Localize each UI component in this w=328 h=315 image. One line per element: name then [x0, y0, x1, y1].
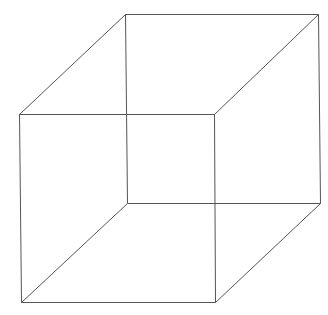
cube-edge-front_br-back_br [216, 204, 321, 303]
cube-edge-front_bl-back_bl [22, 204, 128, 303]
cube-edge-front_tr-front_br [215, 115, 216, 303]
cube-wireframe [0, 0, 328, 315]
cube-edge-front_tr-back_tr [215, 15, 319, 115]
cube-edge-front_tl-back_tl [20, 15, 126, 115]
cube-edge-front_bl-front_tl [20, 115, 22, 303]
necker-cube-diagram [0, 0, 328, 315]
cube-edge-back_tr-back_br [319, 15, 321, 204]
cube-edge-back_bl-back_tl [126, 15, 128, 204]
